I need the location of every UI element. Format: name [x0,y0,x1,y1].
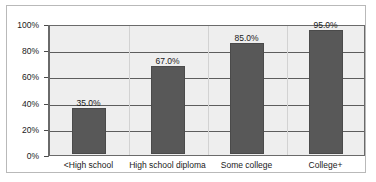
bar[interactable] [151,66,185,154]
bar-value-label: 67.0% [138,57,198,66]
bar[interactable] [230,43,264,154]
category-separator [287,26,288,155]
x-axis-tick-label: <High school [49,161,128,170]
x-axis-tick-label: College+ [286,161,365,170]
x-axis-tick-label: Some college [207,161,286,170]
y-axis-tick-label: 0% [0,152,39,161]
bar-value-label: 85.0% [217,34,277,43]
bar[interactable] [309,30,343,154]
y-axis-tick-mark [44,77,48,78]
bar-value-label: 35.0% [59,99,119,108]
y-axis-tick-mark [44,25,48,26]
category-separator [208,26,209,155]
y-axis-tick-mark [44,51,48,52]
y-axis-tick-label: 80% [0,47,39,56]
y-axis-tick-mark [44,156,48,157]
category-separator [129,26,130,155]
y-axis-tick-label: 40% [0,100,39,109]
y-axis-tick-label: 60% [0,73,39,82]
y-axis-tick-label: 100% [0,21,39,30]
y-axis-line [48,25,49,157]
bar[interactable] [72,108,106,154]
y-axis-tick-label: 20% [0,126,39,135]
y-axis-tick-mark [44,104,48,105]
y-axis-tick-mark [44,130,48,131]
x-axis-tick-label: High school diploma [128,161,207,170]
chart-frame: 100%80%60%40%20%0%35.0%<High school67.0%… [6,5,366,173]
bar-value-label: 95.0% [296,21,356,30]
